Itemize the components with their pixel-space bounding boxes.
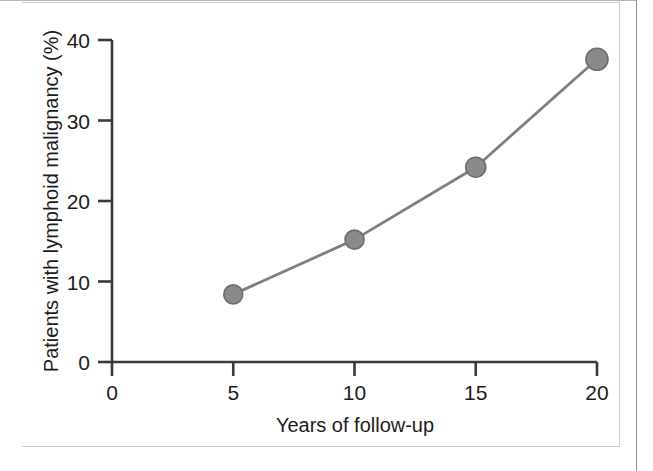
x-tick-label-20: 20 — [585, 381, 608, 404]
x-tick-label-15: 15 — [464, 381, 487, 404]
y-tick-label-20: 20 — [67, 190, 90, 213]
series-markers — [224, 48, 608, 304]
y-axis-tick-labels: 0 10 20 30 40 — [67, 29, 90, 374]
data-point-marker — [345, 230, 364, 249]
line-chart: 0 10 20 30 40 0 5 10 15 20 Years of foll… — [0, 0, 653, 471]
data-point-marker — [466, 157, 486, 177]
y-tick-label-30: 30 — [67, 110, 90, 133]
y-axis-title: Patients with lymphoid malignancy (%) — [40, 30, 62, 372]
y-tick-label-40: 40 — [67, 29, 90, 52]
x-axis-title: Years of follow-up — [276, 414, 434, 436]
x-axis-ticks — [112, 362, 597, 376]
series-line-lymphoid-malignancy — [233, 59, 597, 294]
y-tick-label-0: 0 — [78, 351, 90, 374]
figure-root: 0 10 20 30 40 0 5 10 15 20 Years of foll… — [0, 0, 653, 471]
x-axis-tick-labels: 0 5 10 15 20 — [106, 381, 609, 404]
x-tick-label-10: 10 — [343, 381, 366, 404]
data-point-marker — [586, 48, 608, 70]
y-axis-ticks — [98, 40, 112, 362]
data-point-marker — [224, 285, 243, 304]
x-tick-label-5: 5 — [227, 381, 239, 404]
y-tick-label-10: 10 — [67, 271, 90, 294]
x-tick-label-0: 0 — [106, 381, 118, 404]
